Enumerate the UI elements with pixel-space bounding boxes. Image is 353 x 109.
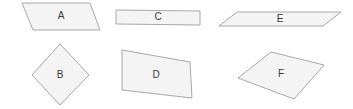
shape-a-label: A xyxy=(58,10,65,21)
shapes-svg: A C E B D F xyxy=(0,0,353,109)
shape-b-label: B xyxy=(57,69,64,80)
shape-group-a[interactable]: A xyxy=(22,3,100,30)
shape-d-label: D xyxy=(152,69,159,80)
shape-group-e[interactable]: E xyxy=(219,12,341,26)
shape-c-label: C xyxy=(154,11,161,22)
shape-f-label: F xyxy=(278,68,284,79)
shape-e-label: E xyxy=(277,13,284,24)
diagram-canvas: A C E B D F xyxy=(0,0,353,109)
shape-group-b[interactable]: B xyxy=(32,44,89,105)
shape-group-c[interactable]: C xyxy=(116,10,200,25)
shape-group-d[interactable]: D xyxy=(122,50,192,98)
shape-group-f[interactable]: F xyxy=(238,52,324,99)
